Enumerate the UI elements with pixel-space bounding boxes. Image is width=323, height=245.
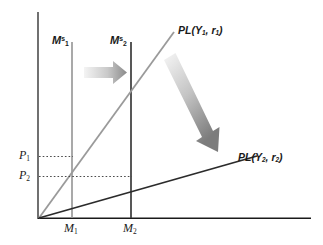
pl1-end: ) [219, 24, 223, 36]
m2-letter: M [123, 221, 133, 235]
shift-right-arrow [84, 61, 127, 84]
shift-down-arrow [164, 53, 220, 152]
m1-sub: 1 [74, 227, 78, 236]
quantity-1-tick-label: M1 [64, 222, 78, 235]
ms1-sub: 1 [65, 40, 69, 47]
m2-sub: 2 [133, 227, 137, 236]
price-1-tick-label: P1 [19, 149, 30, 162]
pl1-text: PL(Y [178, 24, 202, 36]
pl2-mid: , r [266, 151, 276, 163]
ms1-letter: M [52, 34, 61, 46]
pl1-mid: , r [206, 24, 216, 36]
ms2-sub: 2 [123, 40, 127, 47]
pl2-end: ) [279, 151, 283, 163]
economics-diagram: Ms1 Ms2 PL(Y1, r1) PL(Y2, r2) P1 P2 M1 M… [0, 0, 323, 245]
m1-letter: M [64, 221, 74, 235]
pl-curve-2-label: PL(Y2, r2) [238, 152, 283, 164]
p2-sub: 2 [26, 174, 30, 183]
price-2-tick-label: P2 [19, 169, 30, 182]
money-supply-2-label: Ms2 [110, 35, 127, 47]
money-supply-1-label: Ms1 [52, 35, 69, 47]
ms2-letter: M [110, 34, 119, 46]
pl2-text: PL(Y [238, 151, 262, 163]
diagram-canvas [0, 0, 323, 245]
pl-curve-1-label: PL(Y1, r1) [178, 25, 223, 37]
quantity-2-tick-label: M2 [123, 222, 137, 235]
pl-curve-1-line [39, 32, 174, 218]
p1-sub: 1 [26, 154, 30, 163]
